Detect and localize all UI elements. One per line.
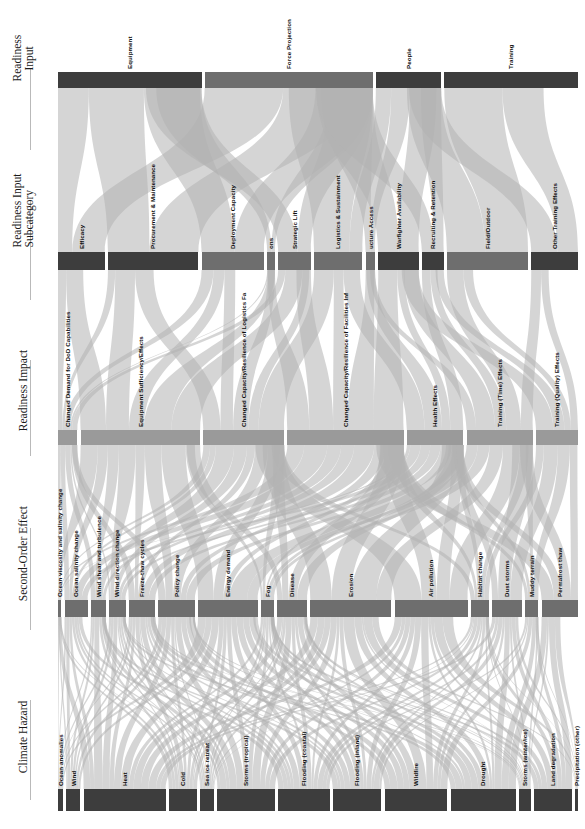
sankey-node-label: Changed Demand for DoD Capabilities: [64, 311, 71, 427]
sankey-node-label: Flooding (inland): [353, 735, 360, 786]
sankey-node[interactable]: [366, 252, 375, 270]
sankey-node-label: Wind: [70, 771, 77, 786]
sankey-node[interactable]: [158, 600, 194, 617]
sankey-node-label: ucture Access: [367, 206, 374, 249]
sankey-node[interactable]: [277, 600, 307, 617]
sankey-node[interactable]: [575, 789, 578, 811]
sankey-node[interactable]: [385, 789, 448, 811]
sankey-node[interactable]: [278, 252, 311, 270]
sankey-node-label: Precipitation (other): [573, 726, 580, 786]
sankey-node[interactable]: [81, 430, 201, 445]
sankey-node-label: Logistics & Sustainment: [334, 175, 341, 249]
sankey-node[interactable]: [58, 430, 77, 445]
sankey-node-label: Procurement & Maintenance: [149, 163, 156, 249]
sankey-node-label: Muddy terrain: [528, 555, 535, 597]
sankey-node-label: Other Training Effects: [551, 183, 558, 249]
sankey-node[interactable]: [217, 789, 275, 811]
sankey-svg: Ocean anomaliesWindHeatColdSea ice retre…: [46, 0, 585, 829]
sankey-node[interactable]: [109, 600, 126, 617]
sankey-node[interactable]: [525, 600, 538, 617]
sankey-node[interactable]: [471, 600, 489, 617]
sankey-node[interactable]: [205, 72, 373, 88]
sankey-node[interactable]: [314, 252, 362, 270]
sankey-figure: Readiness Input Readiness Input Subcateg…: [0, 0, 585, 829]
sankey-node[interactable]: [447, 252, 528, 270]
sankey-node-label: Training (Quality) Effects: [553, 352, 560, 427]
sankey-node-label: Storms (winter/ice): [521, 729, 528, 786]
sankey-node[interactable]: [91, 600, 106, 617]
sankey-node[interactable]: [58, 72, 202, 88]
sankey-node[interactable]: [58, 789, 63, 811]
sankey-node[interactable]: [444, 72, 578, 88]
sankey-node-label: Wind shear and turbulence: [95, 516, 102, 597]
sankey-node[interactable]: [333, 789, 382, 811]
sankey-node[interactable]: [467, 430, 533, 445]
sankey-node[interactable]: [531, 252, 578, 270]
sankey-node[interactable]: [267, 252, 275, 270]
sankey-node-label: Heat: [121, 772, 128, 786]
sankey-node-label: Cold: [179, 772, 186, 786]
sankey-node[interactable]: [203, 430, 284, 445]
sankey-node[interactable]: [378, 252, 419, 270]
sankey-node-label: Dust storms: [503, 560, 510, 597]
sankey-node[interactable]: [200, 789, 214, 811]
sankey-node[interactable]: [198, 600, 258, 617]
sankey-node-label: Changed Capacity/Resilience of Logistics…: [240, 292, 247, 427]
sankey-node-label: Equipment: [126, 36, 133, 69]
sankey-node-label: Warfighter Availability: [395, 182, 402, 249]
sankey-node[interactable]: [287, 430, 403, 445]
sankey-node-label: Efficacy: [78, 224, 85, 249]
sankey-node[interactable]: [451, 789, 516, 811]
sankey-node-label: Fog: [264, 585, 271, 597]
sankey-node[interactable]: [58, 600, 61, 617]
axis-label-readiness-input-subcategory: Readiness Input Subcategory: [11, 201, 36, 247]
sankey-node[interactable]: [169, 789, 197, 811]
sankey-node[interactable]: [129, 600, 155, 617]
sankey-node-label: Strategic Lift: [291, 210, 298, 249]
axis-label-readiness-impact: Readiness Impact: [17, 385, 29, 431]
sankey-node[interactable]: [66, 789, 80, 811]
axis-label-climate-hazard: Climate Hazard: [17, 727, 29, 773]
sankey-node[interactable]: [108, 252, 198, 270]
sankey-node-label: Air pollution: [427, 560, 434, 597]
sankey-node-label: Storms (tropical): [242, 735, 249, 786]
sankey-node[interactable]: [65, 600, 88, 617]
sankey-node-label: Ocean anomalies: [57, 734, 64, 786]
sankey-node-label: Disease: [288, 573, 295, 597]
sankey-node[interactable]: [422, 252, 444, 270]
sankey-link: [94, 617, 103, 789]
sankey-node-label: Changed Capacity/Resilience of Facilitie…: [342, 292, 349, 427]
sankey-node-label: Field/Outdoor: [484, 207, 491, 249]
sankey-node[interactable]: [542, 600, 578, 617]
sankey-node-label: Energy demand: [224, 550, 231, 597]
sankey-link: [221, 270, 236, 430]
sankey-node-label: Force Projection: [285, 19, 292, 69]
sankey-node[interactable]: [395, 600, 468, 617]
sankey-node-label: Wildfire: [412, 762, 419, 786]
sankey-node[interactable]: [519, 789, 531, 811]
sankey-node[interactable]: [536, 430, 578, 445]
sankey-node[interactable]: [492, 600, 522, 617]
sankey-node-label: Ocean salinity change: [72, 530, 79, 597]
sankey-node-label: Freeze-thaw cycles: [138, 539, 145, 597]
sankey-node[interactable]: [84, 789, 166, 811]
sankey-node-label: Equipment Sufficiency/Effects: [137, 336, 144, 427]
sankey-node-label: Sea ice retreat: [203, 743, 210, 786]
stage-axis-labels: Readiness Input Readiness Input Subcateg…: [0, 0, 46, 829]
sankey-node[interactable]: [58, 252, 105, 270]
sankey-node[interactable]: [310, 600, 391, 617]
sankey-node-label: Permafrost thaw: [556, 547, 563, 597]
sankey-node-label: Training: [507, 44, 514, 69]
sankey-link: [570, 445, 578, 600]
sankey-canvas: Ocean anomaliesWindHeatColdSea ice retre…: [46, 0, 585, 829]
sankey-node-label: Policy change: [173, 554, 180, 597]
sankey-node[interactable]: [407, 430, 464, 445]
sankey-node-label: Land degradation: [549, 733, 556, 786]
sankey-node-label: Erosion: [347, 573, 354, 597]
sankey-node-label: Drought: [479, 762, 486, 787]
sankey-node[interactable]: [534, 789, 572, 811]
sankey-node[interactable]: [261, 600, 274, 617]
sankey-node[interactable]: [278, 789, 329, 811]
sankey-node[interactable]: [376, 72, 441, 88]
sankey-node[interactable]: [202, 252, 264, 270]
